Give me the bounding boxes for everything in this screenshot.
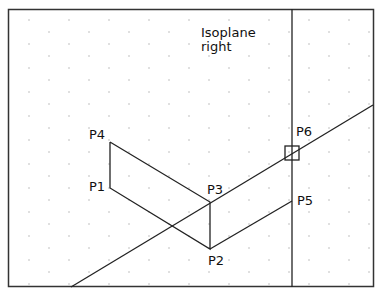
point-label-p6: P6: [296, 125, 312, 139]
point-label-p2: P2: [208, 254, 224, 268]
isoplane-mode: right: [201, 40, 256, 54]
drawing-canvas[interactable]: [0, 0, 380, 292]
isoplane-label: Isoplane: [201, 26, 256, 40]
point-label-p3: P3: [207, 183, 223, 197]
isometric-grid: [28, 19, 370, 285]
point-label-p4: P4: [89, 128, 105, 142]
point-label-p1: P1: [89, 180, 105, 194]
isoplane-annotation: Isoplane right: [201, 26, 256, 54]
point-label-p5: P5: [297, 194, 313, 208]
drawing-frame: [9, 10, 374, 287]
line-p2-p5: [210, 201, 292, 249]
